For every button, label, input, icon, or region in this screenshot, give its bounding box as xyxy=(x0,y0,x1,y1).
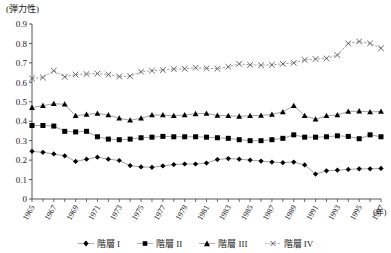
x-tick-label: 1991 xyxy=(305,204,321,222)
data-point-diamond xyxy=(378,166,383,171)
x-tick-label: 1967 xyxy=(43,204,59,222)
data-point-square xyxy=(30,123,35,128)
y-tick-label: 0.4 xyxy=(16,116,28,126)
legend-item-2[interactable]: 階層 III xyxy=(199,237,247,250)
data-point-diamond xyxy=(335,168,340,173)
data-point-square xyxy=(62,129,67,134)
x-tick-label: 1987 xyxy=(261,204,277,222)
data-point-square xyxy=(40,123,45,128)
series-2 xyxy=(29,101,384,123)
data-point-square xyxy=(346,134,351,139)
y-tick-label: 0 xyxy=(23,194,28,204)
data-point-triangle xyxy=(356,108,362,113)
data-point-diamond xyxy=(73,159,78,164)
data-point-diamond xyxy=(215,157,220,162)
x-tick-label: 1977 xyxy=(152,204,168,222)
data-point-diamond xyxy=(324,168,329,173)
data-point-diamond xyxy=(367,166,372,171)
data-point-cross xyxy=(280,61,286,67)
data-point-cross xyxy=(324,56,330,62)
data-point-cross xyxy=(62,74,68,80)
data-point-diamond xyxy=(84,157,89,162)
data-point-cross xyxy=(149,68,155,74)
data-point-cross xyxy=(51,68,57,74)
data-point-square xyxy=(106,137,111,142)
legend-item-1[interactable]: 階層 II xyxy=(137,237,182,250)
legend-marker-cross-icon xyxy=(265,239,281,248)
data-point-cross xyxy=(269,62,275,68)
y-tick-label: 0.7 xyxy=(16,58,28,68)
data-point-square xyxy=(379,134,384,139)
data-point-diamond xyxy=(280,160,285,165)
data-point-square xyxy=(291,132,296,137)
data-point-square xyxy=(237,137,242,142)
x-tick-label: 1985 xyxy=(239,204,255,222)
legend-label-3: 階層 IV xyxy=(284,237,314,250)
data-point-square xyxy=(95,134,100,139)
data-point-cross xyxy=(236,61,242,67)
data-point-diamond xyxy=(204,160,209,165)
x-tick-label: 1989 xyxy=(283,204,299,222)
data-point-diamond xyxy=(237,157,242,162)
data-point-square xyxy=(269,137,274,142)
data-point-square xyxy=(335,133,340,138)
data-point-square xyxy=(215,135,220,140)
legend-item-0[interactable]: 階層 I xyxy=(78,237,120,250)
data-point-square xyxy=(51,124,56,129)
data-point-diamond xyxy=(95,155,100,160)
data-point-cross xyxy=(182,66,188,72)
data-point-square xyxy=(182,134,187,139)
series-3 xyxy=(29,39,384,82)
x-tick-label: 1975 xyxy=(130,204,146,222)
data-point-square xyxy=(248,138,253,143)
data-point-square xyxy=(280,136,285,141)
data-point-square xyxy=(84,129,89,134)
y-tick-label: 0.2 xyxy=(16,155,27,165)
plot-area: 00.10.20.30.40.50.60.70.80.9196519671969… xyxy=(0,0,391,253)
data-point-square xyxy=(259,138,264,143)
data-point-square xyxy=(139,135,144,140)
legend-label-1: 階層 II xyxy=(156,237,182,250)
data-point-diamond xyxy=(138,164,143,169)
data-point-diamond xyxy=(128,163,133,168)
data-point-diamond xyxy=(258,158,263,163)
x-tick-label: 1983 xyxy=(217,204,233,222)
x-tick-label: 1981 xyxy=(195,204,211,222)
data-point-diamond xyxy=(193,161,198,166)
y-tick-label: 0.6 xyxy=(16,78,28,88)
data-point-triangle xyxy=(51,101,57,106)
x-tick-label: 1973 xyxy=(108,204,124,222)
legend-label-0: 階層 I xyxy=(97,237,120,250)
data-point-square xyxy=(160,134,165,139)
data-point-square xyxy=(171,134,176,139)
data-point-diamond xyxy=(117,158,122,163)
data-point-square xyxy=(117,137,122,142)
data-point-square xyxy=(149,135,154,140)
data-point-square xyxy=(193,134,198,139)
y-tick-label: 0.1 xyxy=(16,175,27,185)
data-point-diamond xyxy=(62,153,67,158)
data-point-triangle xyxy=(280,109,286,114)
data-point-diamond xyxy=(226,156,231,161)
data-point-diamond xyxy=(269,159,274,164)
legend-item-3[interactable]: 階層 IV xyxy=(265,237,314,250)
data-point-diamond xyxy=(182,161,187,166)
x-tick-label: 1971 xyxy=(86,204,102,222)
data-point-square xyxy=(128,137,133,142)
legend-marker-triangle-icon xyxy=(199,239,215,248)
data-point-cross xyxy=(95,71,101,77)
data-point-cross xyxy=(335,52,341,58)
x-tick-label: 1995 xyxy=(348,204,364,222)
data-point-square xyxy=(313,135,318,140)
data-point-diamond xyxy=(346,167,351,172)
data-point-cross xyxy=(378,46,384,52)
data-point-square xyxy=(302,135,307,140)
y-tick-label: 0.8 xyxy=(16,39,28,49)
series-0 xyxy=(29,149,383,177)
data-point-diamond xyxy=(51,151,56,156)
legend-label-2: 階層 III xyxy=(218,237,247,250)
x-tick-label: 1965 xyxy=(21,204,37,222)
data-point-triangle xyxy=(378,109,384,114)
data-point-diamond xyxy=(171,162,176,167)
y-tick-label: 0.9 xyxy=(16,19,28,29)
